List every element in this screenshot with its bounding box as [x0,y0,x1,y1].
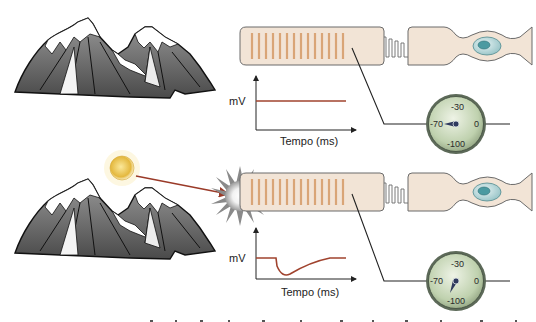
membrane-potential-graph: mV Tempo (ms) [229,228,356,298]
panel-light: mV Tempo (ms) -30 -70 0 -100 [15,150,532,311]
dial-label-right: 0 [474,119,479,129]
membrane-potential-graph: mV Tempo (ms) [229,76,356,147]
graph-xlabel: Tempo (ms) [280,135,338,147]
phototransduction-diagram: mV Tempo (ms) -30 -70 0 -100 [0,0,536,322]
dial-label-left: -70 [430,276,443,286]
sun-icon [110,156,134,180]
voltmeter-dial: -30 -70 0 -100 [426,94,486,154]
panel-dark: mV Tempo (ms) -30 -70 0 -100 [15,18,532,154]
potential-trace-hyperpolarization [256,258,346,275]
graph-xlabel: Tempo (ms) [281,286,339,298]
graph-ylabel: mV [229,252,246,264]
rod-photoreceptor-cell [240,173,532,211]
graph-ylabel: mV [229,95,246,107]
dial-label-bottom: -100 [447,139,465,149]
dial-label-top: -30 [451,102,464,112]
mountains-illustration [15,18,215,98]
voltmeter-dial: -30 -70 0 -100 [426,251,486,311]
rod-photoreceptor-cell [240,27,532,65]
dial-label-right: 0 [474,276,479,286]
dial-label-top: -30 [451,259,464,269]
dial-label-left: -70 [430,119,443,129]
mountains-illustration [15,179,215,259]
dial-label-bottom: -100 [447,296,465,306]
